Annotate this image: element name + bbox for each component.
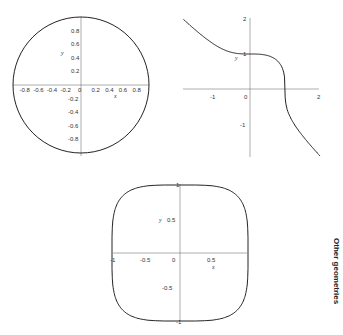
y-tick: -0.2 <box>68 96 79 102</box>
y-tick: -0.4 <box>68 109 79 115</box>
x-tick: -0.5 <box>140 257 151 263</box>
figure: -0.8-0.6-0.4-0.200.20.40.60.8 0.80.60.40… <box>0 0 343 335</box>
y-axis-label: y <box>60 50 64 56</box>
y-tick: 0.6 <box>71 41 80 47</box>
x-tick: 0.4 <box>105 87 114 93</box>
x-tick: -0.4 <box>47 87 58 93</box>
y-tick: 0.2 <box>71 68 80 74</box>
y-tick: -0.6 <box>68 123 79 129</box>
y-tick: 0.4 <box>71 55 80 61</box>
x-tick: -0.8 <box>20 87 31 93</box>
y-tick: -0.5 <box>162 285 173 291</box>
superellipse-plot: -1 -0.5 0 0.5 1 0.5 -0.5 -1 x y <box>110 182 248 325</box>
x-tick: -0.2 <box>60 87 71 93</box>
y-axis-label: y <box>234 55 238 61</box>
x-tick: 2 <box>317 94 321 100</box>
y-tick: -1 <box>176 319 182 325</box>
y-tick: -0.8 <box>68 136 79 142</box>
section-side-label: Other geometries <box>329 238 341 333</box>
x-axis-label: x <box>211 264 215 270</box>
y-axis-label: y <box>158 217 162 223</box>
x-axis-label: x <box>113 93 117 99</box>
x-tick: 0.8 <box>132 87 141 93</box>
y-tick: 0.5 <box>167 217 176 223</box>
y-tick: 0.8 <box>71 28 80 34</box>
cubic-curve <box>184 19 321 156</box>
y-tick: 2 <box>243 16 247 22</box>
x-tick: -1 <box>110 257 116 263</box>
x-tick: 0 <box>244 94 248 100</box>
x-tick: 0.6 <box>119 87 128 93</box>
cubic-curve-plot: -1 0 2 2 1 -1 y <box>183 16 321 157</box>
x-tick: -0.6 <box>33 87 44 93</box>
x-tick: 0.5 <box>207 257 216 263</box>
circle-plot: -0.8-0.6-0.4-0.200.20.40.60.8 0.80.60.40… <box>13 17 149 156</box>
x-tick: -1 <box>210 94 216 100</box>
y-tick: -1 <box>240 122 246 128</box>
x-tick: 0 <box>78 87 82 93</box>
x-tick: 0.2 <box>92 87 101 93</box>
x-tick: 0 <box>172 257 176 263</box>
